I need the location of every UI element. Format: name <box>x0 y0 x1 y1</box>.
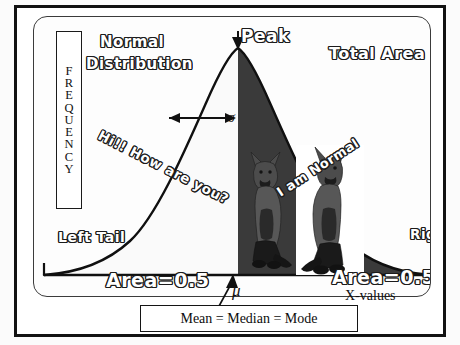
mean-median-mode-box: Mean = Median = Mode <box>140 305 358 332</box>
mu-symbol-label: μ <box>232 281 241 301</box>
peak-label: Peak <box>241 26 290 46</box>
mean-median-mode-label: Mean = Median = Mode <box>180 311 317 327</box>
dog-figure-left <box>234 150 296 270</box>
frequency-letter: E <box>65 89 73 101</box>
plot-panel: F R E Q U E N C Y <box>33 16 431 297</box>
frequency-axis-label-box: F R E Q U E N C Y <box>56 31 82 209</box>
figure-root: F R E Q U E N C Y <box>0 0 460 345</box>
area-left-label: Area=0.5 <box>106 269 209 291</box>
german-shepherd-icon <box>234 150 296 270</box>
title-line1: Normal <box>100 33 164 51</box>
x-axis-label: X-values <box>345 288 396 304</box>
right-tail-label: Right Tail <box>410 226 431 242</box>
title-line2: Distribution <box>86 55 193 73</box>
area-right-label: Area=0.5 <box>332 266 431 288</box>
total-area-label: Total Area = 1 <box>329 44 431 63</box>
sigma-symbol-label: σ <box>228 110 235 126</box>
frequency-letter: N <box>64 138 73 150</box>
frequency-letter: Y <box>64 163 73 175</box>
left-tail-label: Left Tail <box>58 229 125 245</box>
